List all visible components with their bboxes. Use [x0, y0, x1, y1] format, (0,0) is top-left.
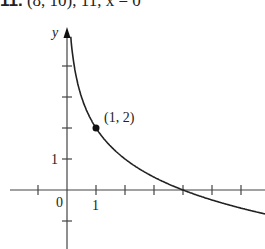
- point-marker: [93, 125, 100, 132]
- point-label: (1, 2): [104, 110, 135, 126]
- graph: y 0 1 1 (1, 2): [0, 0, 265, 249]
- y-tick-label-1: 1: [51, 152, 58, 167]
- y-axis-label: y: [50, 25, 59, 40]
- x-tick-label-0: 0: [56, 195, 63, 210]
- curve: [71, 37, 265, 215]
- x-tick-label-1: 1: [92, 198, 99, 213]
- y-axis-arrow-icon: [64, 27, 71, 38]
